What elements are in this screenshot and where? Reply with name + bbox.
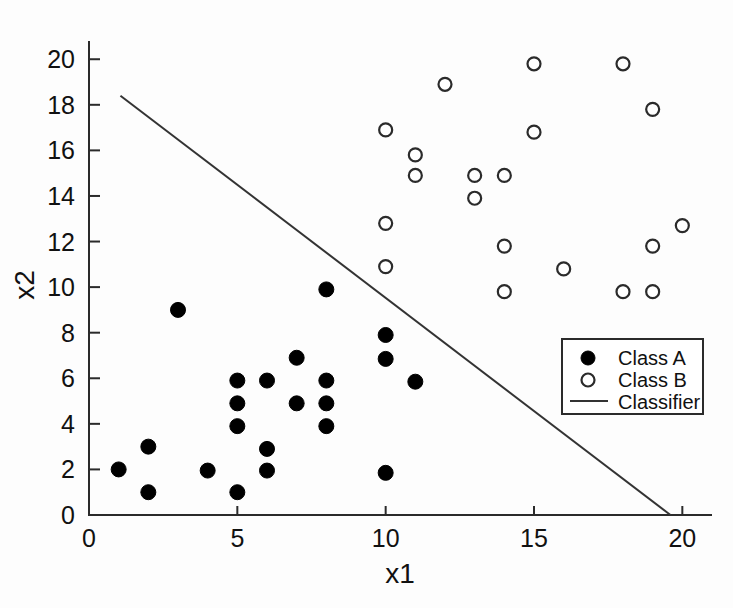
data-point-class-a [408,374,423,389]
data-point-class-a [289,396,304,411]
data-point-class-a [230,373,245,388]
data-point-class-b [617,285,630,298]
data-point-class-a [319,282,334,297]
y-tick-label: 12 [47,228,75,256]
data-point-class-a [230,485,245,500]
y-tick-label: 6 [61,364,75,392]
x-axis-label: x1 [385,558,415,589]
data-point-class-b [646,240,659,253]
data-point-class-a [260,463,275,478]
legend-label-class-b: Class B [618,369,687,391]
y-tick-label: 10 [47,273,75,301]
data-point-class-b [439,78,452,91]
data-point-class-b [528,126,541,139]
data-point-class-b [498,240,511,253]
legend-marker-class-a [581,351,595,365]
data-point-class-b [498,169,511,182]
classifier-line [120,96,670,515]
axis-frame [89,41,712,515]
data-point-class-a [319,373,334,388]
x-tick-label: 0 [82,524,96,552]
data-point-class-a [319,396,334,411]
data-point-class-b [409,169,422,182]
data-point-class-a [378,351,393,366]
y-tick-label: 20 [47,45,75,73]
data-point-class-b [528,57,541,70]
data-point-class-a [378,327,393,342]
legend[interactable]: Class A Class B Classifier [562,339,703,414]
classifier-line-group [120,96,670,515]
data-points-group [111,57,689,499]
legend-label-class-a: Class A [618,347,686,369]
y-tick-label: 8 [61,319,75,347]
y-tick-label: 4 [61,410,75,438]
legend-label-classifier: Classifier [618,391,701,413]
y-axis-tick-labels: 02468101214161820 [47,45,75,529]
data-point-class-b [468,169,481,182]
y-tick-label: 18 [47,91,75,119]
x-tick-label: 20 [668,524,696,552]
data-point-class-a [230,396,245,411]
data-point-class-b [557,262,570,275]
data-point-class-b [498,285,511,298]
axes [89,41,712,515]
data-point-class-a [260,441,275,456]
legend-marker-class-b [582,374,595,387]
data-point-class-b [379,217,392,230]
data-point-class-b [676,219,689,232]
plot-canvas: 05101520 02468101214161820 x1 x2 Class A… [0,0,733,608]
data-point-class-b [617,57,630,70]
x-axis-ticks [89,506,682,515]
data-point-class-b [379,260,392,273]
data-point-class-a [289,350,304,365]
data-point-class-b [379,123,392,136]
data-point-class-a [378,465,393,480]
x-tick-label: 5 [230,524,244,552]
data-point-class-b [646,103,659,116]
y-tick-label: 2 [61,455,75,483]
data-point-class-a [141,485,156,500]
data-point-class-a [200,463,215,478]
data-point-class-b [646,285,659,298]
x-tick-label: 15 [520,524,548,552]
y-axis-ticks [89,59,100,515]
data-point-class-a [230,419,245,434]
data-point-class-a [260,373,275,388]
y-axis-label: x2 [9,270,40,300]
data-point-class-a [111,462,126,477]
x-tick-label: 10 [372,524,400,552]
data-point-class-a [141,439,156,454]
data-point-class-b [409,148,422,161]
x-axis-tick-labels: 05101520 [82,524,696,552]
y-tick-label: 16 [47,136,75,164]
scatter-plot-figure: 05101520 02468101214161820 x1 x2 Class A… [0,0,733,608]
data-point-class-a [319,419,334,434]
data-point-class-b [468,192,481,205]
y-tick-label: 0 [61,501,75,529]
y-tick-label: 14 [47,182,75,210]
data-point-class-a [171,302,186,317]
